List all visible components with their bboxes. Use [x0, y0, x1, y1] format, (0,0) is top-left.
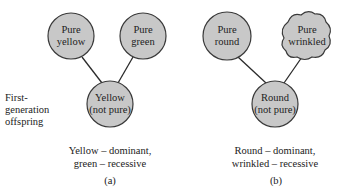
caption-a: Yellow – dominant, green – recessive — [60, 144, 160, 170]
caption-line: Yellow – dominant, — [60, 144, 160, 157]
pure-green-label: Pure green — [118, 24, 168, 48]
side-label-line: generation — [5, 104, 49, 116]
node-label-line: Pure — [282, 24, 332, 36]
side-label-line: First- — [5, 92, 49, 104]
round-not-pure-label: Round (not pure) — [250, 92, 300, 116]
pure-yellow-label: Pure yellow — [46, 24, 96, 48]
yellow-not-pure-label: Yellow (not pure) — [85, 92, 135, 116]
connector-line — [82, 57, 102, 83]
pure-round-label: Pure round — [202, 24, 252, 48]
node-label-line: green — [118, 36, 168, 48]
caption-line: Round – dominant, — [225, 144, 325, 157]
connector-line — [118, 57, 133, 83]
side-label-line: offspring — [5, 116, 49, 128]
pure-wrinkled-label: Pure wrinkled — [282, 24, 332, 48]
node-label-line: round — [202, 36, 252, 48]
node-label-line: yellow — [46, 36, 96, 48]
node-label-line: (not pure) — [250, 104, 300, 116]
caption-b: Round – dominant, wrinkled – recessive — [225, 144, 325, 170]
node-label-line: Pure — [118, 24, 168, 36]
panel-label-b: (b) — [266, 174, 286, 187]
panel-label-a: (a) — [100, 174, 120, 187]
caption-line: green – recessive — [60, 157, 160, 170]
node-label-line: (not pure) — [85, 104, 135, 116]
connector-line — [238, 57, 266, 83]
node-label-line: Yellow — [85, 92, 135, 104]
first-generation-label: First- generation offspring — [5, 92, 49, 128]
node-label-line: Pure — [202, 24, 252, 36]
node-label-line: Round — [250, 92, 300, 104]
node-label-line: Pure — [46, 24, 96, 36]
connector-line — [284, 57, 302, 83]
node-label-line: wrinkled — [282, 36, 332, 48]
caption-line: wrinkled – recessive — [225, 157, 325, 170]
